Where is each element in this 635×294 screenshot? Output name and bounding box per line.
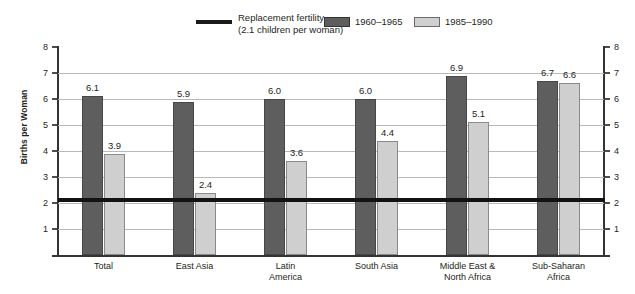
legend-swatch-dark-icon bbox=[324, 17, 350, 27]
y-axis-tick-left bbox=[52, 176, 57, 177]
bar-value-label: 6.6 bbox=[552, 70, 587, 80]
y-axis-tick-label-right: 7 bbox=[614, 69, 624, 78]
y-axis-tick-left bbox=[52, 150, 57, 151]
x-axis-category-label: South Asia bbox=[334, 261, 419, 272]
bar bbox=[446, 76, 467, 255]
y-axis-tick-label-left: 1 bbox=[38, 225, 48, 234]
bar bbox=[355, 99, 376, 255]
gridline bbox=[58, 151, 604, 152]
chart-legend: Replacement fertility (2.1 children per … bbox=[196, 12, 616, 46]
bar bbox=[104, 154, 125, 255]
y-axis-tick-label-left: 4 bbox=[38, 147, 48, 156]
bar-value-label: 6.0 bbox=[257, 86, 292, 96]
x-axis-category-label-line: Latin bbox=[243, 261, 328, 272]
bar-value-label: 2.4 bbox=[188, 180, 223, 190]
legend-swatch-light-icon bbox=[414, 17, 440, 27]
x-axis-line bbox=[52, 255, 610, 257]
x-axis-category-label: LatinAmerica bbox=[243, 261, 328, 283]
y-axis-tick-label-left: 6 bbox=[38, 95, 48, 104]
legend-item-series-1985-1990: 1985–1990 bbox=[414, 16, 493, 27]
y-axis-tick-label-right: 6 bbox=[614, 95, 624, 104]
y-axis-tick-label-left: 7 bbox=[38, 69, 48, 78]
gridline bbox=[58, 229, 604, 230]
legend-item-series-1960-1965: 1960–1965 bbox=[324, 16, 403, 27]
x-axis-category-label: Total bbox=[61, 261, 146, 272]
x-axis-category-label-line: America bbox=[243, 272, 328, 283]
bar-value-label: 6.0 bbox=[348, 86, 383, 96]
replacement-fertility-reference-line bbox=[58, 198, 605, 202]
x-axis-category-label-line: North Africa bbox=[425, 272, 510, 283]
x-axis-category-label-line: Middle East & bbox=[425, 261, 510, 272]
y-axis-title: Births per Woman bbox=[19, 67, 29, 187]
x-axis-category-label-line: Sub-Saharan bbox=[516, 261, 601, 272]
y-axis-tick-label-right: 4 bbox=[614, 147, 624, 156]
y-axis-tick-left bbox=[52, 98, 57, 99]
bar-value-label: 6.1 bbox=[75, 83, 110, 93]
replacement-line-swatch bbox=[196, 20, 232, 24]
gridline bbox=[58, 73, 604, 74]
y-axis-tick-right bbox=[605, 72, 610, 73]
bar bbox=[286, 161, 307, 255]
y-axis-tick-right bbox=[605, 98, 610, 99]
y-axis-tick-right bbox=[605, 150, 610, 151]
bar bbox=[264, 99, 285, 255]
x-axis-category-label: East Asia bbox=[152, 261, 237, 272]
gridline bbox=[58, 177, 604, 178]
x-axis-category-label-line: Africa bbox=[516, 272, 601, 283]
bar bbox=[82, 96, 103, 255]
legend-label-series-2: 1985–1990 bbox=[445, 16, 493, 27]
bar-value-label: 6.9 bbox=[439, 63, 474, 73]
bar-value-label: 5.1 bbox=[461, 109, 496, 119]
y-axis-tick-left bbox=[52, 202, 57, 203]
y-axis-tick-label-left: 5 bbox=[38, 121, 48, 130]
bar-value-label: 5.9 bbox=[166, 89, 201, 99]
bar-value-label: 4.4 bbox=[370, 128, 405, 138]
gridline bbox=[58, 125, 604, 126]
y-axis-tick-left bbox=[52, 124, 57, 125]
y-axis-tick-label-left: 2 bbox=[38, 199, 48, 208]
y-axis-tick-label-right: 5 bbox=[614, 121, 624, 130]
bar-value-label: 3.9 bbox=[97, 141, 132, 151]
legend-label-series-1: 1960–1965 bbox=[355, 16, 403, 27]
y-axis-tick-left bbox=[52, 72, 57, 73]
y-axis-tick-right bbox=[605, 228, 610, 229]
bar-value-label: 3.6 bbox=[279, 148, 314, 158]
y-axis-tick-label-right: 3 bbox=[614, 173, 624, 182]
fertility-bar-chart: Replacement fertility (2.1 children per … bbox=[0, 0, 635, 294]
plot-area: 11223344556677886.13.95.92.46.03.66.04.4… bbox=[57, 47, 605, 255]
y-axis-tick-left bbox=[52, 46, 57, 47]
x-axis-category-label-line: South Asia bbox=[334, 261, 419, 272]
bar bbox=[468, 122, 489, 255]
gridline bbox=[58, 99, 604, 100]
y-axis-tick-left bbox=[52, 228, 57, 229]
y-axis-tick-right bbox=[605, 46, 610, 47]
y-axis-tick-right bbox=[605, 124, 610, 125]
y-axis-tick-label-left: 8 bbox=[38, 43, 48, 52]
y-axis-tick-label-left: 3 bbox=[38, 173, 48, 182]
y-axis-tick-label-right: 2 bbox=[614, 199, 624, 208]
y-axis-tick-right bbox=[605, 202, 610, 203]
x-axis-category-label: Middle East &North Africa bbox=[425, 261, 510, 283]
y-axis-tick-right bbox=[605, 176, 610, 177]
x-axis-category-label-line: East Asia bbox=[152, 261, 237, 272]
y-axis-tick-label-right: 1 bbox=[614, 225, 624, 234]
x-axis-category-label: Sub-SaharanAfrica bbox=[516, 261, 601, 283]
gridline bbox=[58, 203, 604, 204]
y-axis-tick-label-right: 8 bbox=[614, 43, 624, 52]
bar bbox=[173, 102, 194, 255]
x-axis-category-label-line: Total bbox=[61, 261, 146, 272]
bar bbox=[537, 81, 558, 255]
bar bbox=[559, 83, 580, 255]
